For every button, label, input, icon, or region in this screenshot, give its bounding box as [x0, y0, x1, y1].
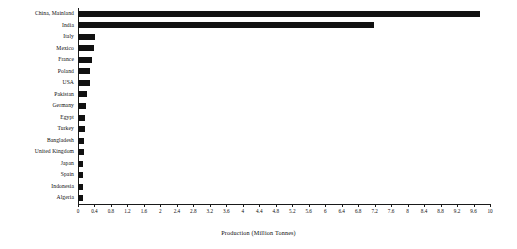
bar: [78, 57, 92, 63]
category-label: Italy: [0, 31, 74, 43]
bar: [78, 80, 90, 86]
category-label: Spain: [0, 169, 74, 181]
bar-row: Turkey: [78, 123, 490, 135]
bar-row: India: [78, 20, 490, 32]
bar-row: United Kingdom: [78, 146, 490, 158]
bar-row: Egypt: [78, 112, 490, 124]
category-label: United Kingdom: [0, 146, 74, 158]
bar-row: Bangladesh: [78, 135, 490, 147]
footer-band: [0, 243, 517, 249]
bar-row: Mexico: [78, 43, 490, 55]
bar: [78, 126, 85, 132]
x-tick-label: 10: [475, 207, 505, 215]
bar: [78, 45, 94, 51]
bar: [78, 68, 90, 74]
category-label: India: [0, 20, 74, 32]
plot-area: China, MainlandIndiaItalyMexicoFrancePol…: [78, 8, 490, 204]
bar-row: Germany: [78, 100, 490, 112]
bar: [78, 11, 480, 17]
category-label: Japan: [0, 158, 74, 170]
bar-row: Italy: [78, 31, 490, 43]
category-label: China, Mainland: [0, 8, 74, 20]
category-label: Mexico: [0, 43, 74, 55]
bar-row: Spain: [78, 169, 490, 181]
category-label: Indonesia: [0, 181, 74, 193]
x-axis-title: Production (Million Tonnes): [0, 228, 517, 238]
bar: [78, 195, 83, 201]
category-label: Pakistan: [0, 89, 74, 101]
category-label: Germany: [0, 100, 74, 112]
bar: [78, 22, 374, 28]
bar: [78, 149, 84, 155]
bar-row: France: [78, 54, 490, 66]
bar-chart: China, MainlandIndiaItalyMexicoFrancePol…: [0, 0, 517, 249]
category-label: Bangladesh: [0, 135, 74, 147]
bar: [78, 172, 83, 178]
bar: [78, 161, 83, 167]
category-label: France: [0, 54, 74, 66]
bar: [78, 34, 95, 40]
category-label: Egypt: [0, 112, 74, 124]
bar: [78, 184, 83, 190]
bar-row: Japan: [78, 158, 490, 170]
bar: [78, 91, 87, 97]
bar-row: Algeria: [78, 192, 490, 204]
category-label: Poland: [0, 66, 74, 78]
x-axis-line: [78, 204, 490, 205]
category-label: USA: [0, 77, 74, 89]
bar: [78, 115, 85, 121]
bar-row: Pakistan: [78, 89, 490, 101]
category-label: Algeria: [0, 192, 74, 204]
bar: [78, 103, 86, 109]
bar: [78, 138, 84, 144]
bar-row: Indonesia: [78, 181, 490, 193]
bar-row: China, Mainland: [78, 8, 490, 20]
bar-row: USA: [78, 77, 490, 89]
category-label: Turkey: [0, 123, 74, 135]
bar-row: Poland: [78, 66, 490, 78]
